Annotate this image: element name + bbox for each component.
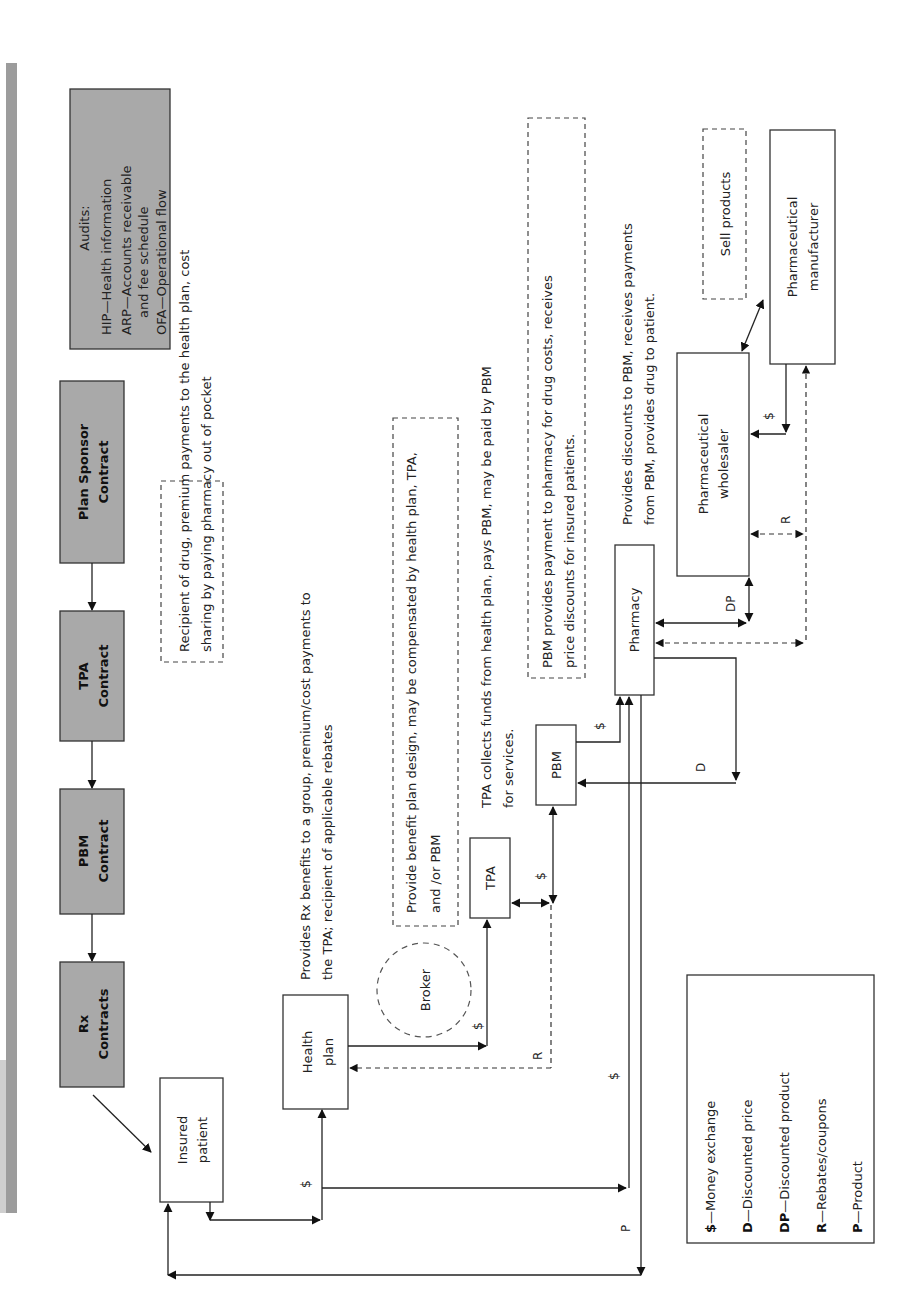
legend-box: $—Money exchange D—Discounted price DP—D… [687,975,874,1243]
manufacturer-box: Pharmaceutical manufacturer [770,130,835,364]
flow-label-tpa-pbm-money: $ [534,872,548,880]
rx-contract-label-1: Rx [76,1014,91,1033]
broker-desc-2: and /or PBM [428,835,443,913]
arrow-rx-to-patient [93,1095,151,1152]
wholesaler-box: Pharmaceutical wholesaler [677,353,749,576]
contract-plan-sponsor: Plan Sponsor Contract [60,381,124,563]
legend-item-discounted-price: D—Discounted price [740,1099,755,1233]
flow-label-pbm-pharmacy-money: $ [593,722,607,730]
pbm-contract-label-1: PBM [76,835,91,867]
patient-label-2: patient [195,1117,210,1163]
health-plan-desc-1: Provides Rx benefits to a group, premium… [298,592,313,980]
legend-item-product: P—Product [850,1161,865,1233]
wholesaler-label-2: wholesaler [716,428,731,499]
flow-pharmacy-d-v [654,658,736,780]
manufacturer-label-2: manufacturer [806,202,821,291]
pharmacy-label: Pharmacy [627,587,642,652]
flow-label-discount: D [694,763,708,772]
wholesaler-label-1: Pharmaceutical [696,414,711,515]
health-plan-desc-2: the TPA; recipient of applicable rebates [320,724,335,980]
legend-item-money: $—Money exchange [703,1101,718,1233]
page-edge-light [0,1060,6,1213]
manufacturer-label-1: Pharmaceutical [785,197,800,298]
patient-label-1: Insured [175,1116,190,1164]
broker-description: Provide benefit plan design, may be comp… [393,418,458,926]
legend-item-rebates: R—Rebates/coupons [814,1098,829,1233]
pharmacy-box: Pharmacy [615,545,654,695]
legend-item-discounted-product: DP—Discounted product [777,1072,792,1233]
contract-tpa: TPA Contract [60,611,124,741]
tpa-contract-label-1: TPA [76,662,91,689]
broker-desc-1: Provide benefit plan design, may be comp… [404,452,419,913]
plan-sponsor-label-2: Contract [96,440,111,503]
tpa-desc-1: TPA collects funds from health plan, pay… [479,366,494,809]
broker-circle: Broker [377,943,471,1037]
flow-wholesaler-manufacturer [742,300,763,351]
wholesaler-desc-2: from PBM, provides drug to patient. [642,293,657,525]
pbm-desc-1: PBM provides payment to pharmacy for dru… [540,275,555,668]
flow-label-mfr-money: $ [762,412,776,420]
tpa-label: TPA [483,866,498,891]
pbm-box: PBM [536,725,576,805]
flow-label-rebate-ws: R [779,516,793,524]
sell-products-label: Sell products [718,172,733,257]
health-plan-label-1: Health [300,1031,315,1074]
tpa-box: TPA [470,838,510,918]
contract-rx: Rx Contracts [60,962,124,1087]
flow-pbm-to-pharmacy [576,697,620,742]
flow-label-pharmacy-money: $ [607,1072,621,1080]
tpa-contract-label-2: Contract [96,644,111,707]
broker-label: Broker [418,968,433,1011]
audits-box: Audits: HIP—Health information ARP—Accou… [70,89,170,349]
pbm-description: PBM provides payment to pharmacy for dru… [528,118,585,678]
wholesaler-desc-1: Provides discounts to PBM, receives paym… [620,223,635,525]
audit-arp: ARP—Accounts receivable [119,166,134,336]
page-edge-bar [6,63,17,1213]
pbm-contract-label-2: Contract [96,819,111,882]
audits-title: Audits: [77,205,92,250]
patient-desc-1: Recipient of drug, premium payments to t… [177,250,192,652]
contract-pbm: PBM Contract [60,789,124,914]
insured-patient-box: Insured patient [160,1078,223,1202]
flow-label-rebate-hp: R [531,1052,545,1060]
patient-desc-2: sharing by paying pharmacy out of pocket [199,376,214,652]
audit-hip: HIP—Health information [99,179,114,335]
pbm-label: PBM [549,751,564,779]
flow-label-product: P [619,1225,633,1232]
audit-arp-2: and fee schedule [136,206,151,318]
pbm-flow-diagram: Audits: HIP—Health information ARP—Accou… [0,0,913,1307]
pbm-desc-2: price discounts for insured patients. [562,434,577,668]
flow-label-hp-tpa-money: $ [471,1022,485,1030]
flow-label-patient-money: $ [299,1180,313,1188]
sell-products-box: Sell products [703,129,746,299]
flow-label-dp: DP [724,596,738,612]
tpa-desc-2: for services. [501,729,516,808]
plan-sponsor-label-1: Plan Sponsor [76,423,91,520]
rx-contract-label-2: Contracts [96,988,111,1059]
audit-ofa: OFA—Operational flow [154,189,169,335]
health-plan-box: Health plan [283,995,348,1109]
health-plan-label-2: plan [321,1038,336,1066]
